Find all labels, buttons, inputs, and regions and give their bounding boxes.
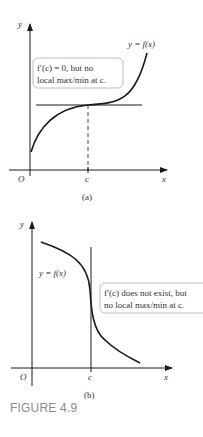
curve-label-a: y = f(x) bbox=[127, 39, 155, 49]
sublabel-a: (a) bbox=[82, 192, 92, 202]
origin-label-b: O bbox=[20, 372, 27, 382]
x-label-a: x bbox=[161, 174, 166, 184]
figure-4-9: y x O c y = f(x) f′(c) = 0, but no local… bbox=[0, 0, 203, 437]
c-label-a: c bbox=[85, 174, 89, 184]
callout-b-line2: no local max/min at c. bbox=[104, 300, 184, 310]
panel-a: y x O c y = f(x) f′(c) = 0, but no local… bbox=[9, 19, 167, 202]
y-label-b: y bbox=[19, 219, 24, 229]
panel-b: y x O c y = f(x) f′(c) does not exist, b… bbox=[11, 219, 203, 400]
figure-caption: FIGURE 4.9 bbox=[10, 401, 77, 415]
curve-label-b: y = f(x) bbox=[38, 268, 66, 278]
y-label-a: y bbox=[17, 19, 22, 29]
sublabel-b: (b) bbox=[84, 390, 95, 400]
callout-b-line1: f′(c) does not exist, but bbox=[104, 288, 187, 298]
c-label-b: c bbox=[88, 372, 92, 382]
callout-a-line2: local max/min at c. bbox=[37, 75, 106, 85]
x-label-b: x bbox=[163, 372, 168, 382]
callout-a-line1: f′(c) = 0, but no bbox=[37, 63, 94, 73]
origin-label-a: O bbox=[18, 174, 25, 184]
